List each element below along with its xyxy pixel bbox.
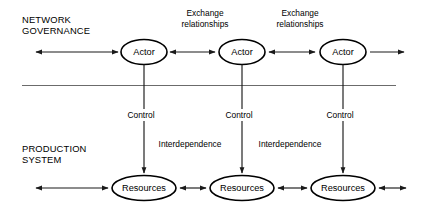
edge-label-control-1: Control — [123, 109, 158, 121]
resources-1-label: Resources — [122, 183, 166, 193]
edge-label-control-3: Control — [322, 109, 357, 121]
actor-3-label: Actor — [332, 47, 353, 57]
interdependence-2-label: Interdependence — [259, 139, 322, 149]
node-resources-1[interactable]: Resources — [112, 176, 176, 201]
edge-label-control-2: Control — [221, 109, 256, 121]
network-governance-diagram: NETWORK GOVERNANCE PRODUCTION SYSTEM Act… — [0, 0, 433, 215]
control-2-label: Control — [226, 110, 253, 120]
node-resources-2[interactable]: Resources — [210, 176, 274, 201]
section-label-network-line1: NETWORK — [22, 14, 72, 25]
diagram-canvas: NETWORK GOVERNANCE PRODUCTION SYSTEM Act… — [0, 0, 433, 215]
node-actor-1[interactable]: Actor — [121, 40, 167, 65]
exchange-1-line2: relationships — [181, 19, 228, 29]
control-1-label: Control — [128, 110, 155, 120]
exchange-2-line1: Exchange — [281, 8, 319, 18]
node-actor-2[interactable]: Actor — [219, 40, 265, 65]
exchange-1-line1: Exchange — [186, 8, 224, 18]
edge-label-exchange-2: Exchange relationships — [276, 8, 323, 29]
resources-3-label: Resources — [321, 183, 365, 193]
edge-label-exchange-1: Exchange relationships — [181, 8, 228, 29]
section-label-production-line1: PRODUCTION — [22, 143, 87, 154]
resources-2-label: Resources — [220, 183, 264, 193]
node-resources-3[interactable]: Resources — [311, 176, 375, 201]
section-label-network-governance: NETWORK GOVERNANCE — [22, 14, 90, 36]
interdependence-1-label: Interdependence — [159, 139, 222, 149]
control-3-label: Control — [327, 110, 354, 120]
section-label-production-system: PRODUCTION SYSTEM — [22, 143, 87, 165]
actor-1-label: Actor — [133, 47, 154, 57]
section-label-network-line2: GOVERNANCE — [22, 25, 90, 36]
exchange-2-line2: relationships — [276, 19, 323, 29]
node-actor-3[interactable]: Actor — [320, 40, 366, 65]
section-label-production-line2: SYSTEM — [22, 154, 61, 165]
actor-2-label: Actor — [231, 47, 252, 57]
